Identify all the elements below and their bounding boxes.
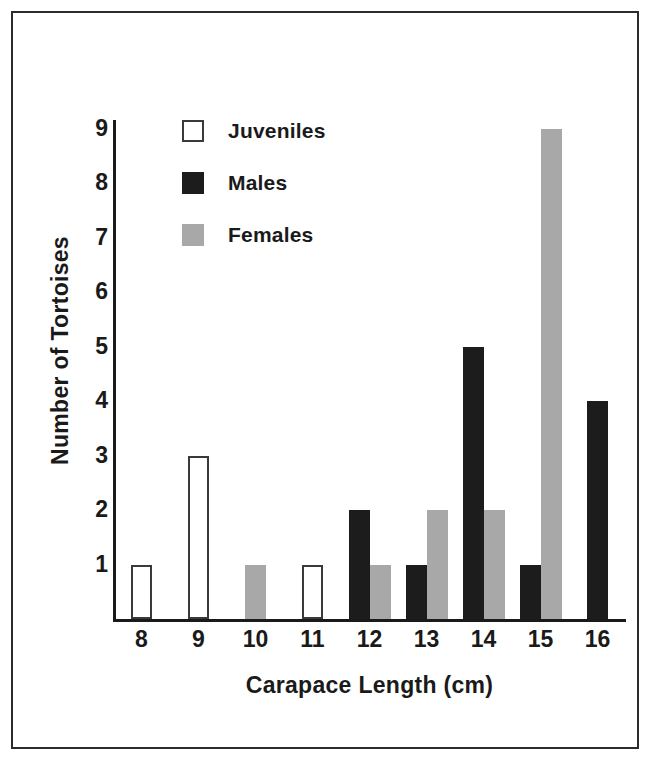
bar-males-13 [406, 565, 427, 620]
x-axis-tick-label: 12 [341, 628, 398, 651]
x-axis-tick-label: 11 [284, 628, 341, 651]
y-axis-tick-label: 6 [74, 280, 108, 303]
x-axis-tick-label: 16 [569, 628, 626, 651]
bar-juveniles-9 [188, 456, 209, 620]
bar-females-13 [427, 510, 448, 619]
x-axis-tick-label: 8 [113, 628, 170, 651]
y-axis-tick-label: 2 [74, 498, 108, 521]
y-axis-tick-label: 4 [74, 389, 108, 412]
legend-swatch-juveniles-icon [182, 120, 204, 142]
x-axis-tick-labels: 8910111213141516 [113, 628, 626, 662]
legend-label: Females [228, 223, 313, 247]
bar-males-12 [349, 510, 370, 619]
x-axis-title: Carapace Length (cm) [113, 672, 626, 699]
legend-label: Juveniles [228, 119, 326, 143]
bar-juveniles-8 [131, 565, 152, 620]
bar-juveniles-11 [302, 565, 323, 620]
x-axis-line [113, 619, 626, 622]
legend-swatch-males-icon [182, 172, 204, 194]
bar-males-15 [520, 565, 541, 620]
y-axis-tick-label: 9 [74, 117, 108, 140]
chart-page: 987654321 8910111213141516 JuvenilesMale… [0, 0, 659, 770]
legend-label: Males [228, 171, 287, 195]
y-axis-title: Number of Tortoises [47, 201, 74, 501]
x-axis-tick-label: 13 [398, 628, 455, 651]
y-axis-tick-label: 8 [74, 171, 108, 194]
bar-females-15 [541, 129, 562, 620]
plot-area: 987654321 8910111213141516 JuvenilesMale… [0, 0, 659, 770]
x-axis-tick-label: 15 [512, 628, 569, 651]
legend-swatch-females-icon [182, 224, 204, 246]
y-axis-line [113, 120, 116, 621]
y-axis-tick-label: 5 [74, 335, 108, 358]
bar-females-12 [370, 565, 391, 620]
bar-females-14 [484, 510, 505, 619]
x-axis-tick-label: 9 [170, 628, 227, 651]
bar-females-10 [245, 565, 266, 620]
x-axis-tick-label: 10 [227, 628, 284, 651]
x-axis-tick-label: 14 [455, 628, 512, 651]
y-axis-tick-label: 7 [74, 226, 108, 249]
bar-males-14 [463, 347, 484, 620]
bar-males-16 [587, 401, 608, 619]
y-axis-tick-label: 3 [74, 444, 108, 467]
y-axis-tick-label: 1 [74, 553, 108, 576]
